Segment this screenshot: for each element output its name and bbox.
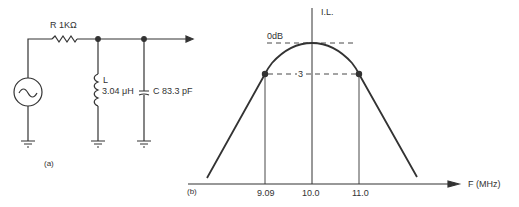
resistor-icon <box>52 36 77 42</box>
capacitor-label: C 83.3 pF <box>153 87 193 96</box>
x-axis-arrow-icon <box>448 181 459 187</box>
x-tick-9-09: 9.09 <box>257 189 275 198</box>
zero-db-label: 0dB <box>267 32 283 41</box>
circuit-caption: (a) <box>44 160 54 168</box>
resistor-label: R 1KΩ <box>50 21 77 30</box>
ground-icon <box>91 141 105 147</box>
ground-icon <box>21 141 35 147</box>
diagram-canvas <box>0 0 519 207</box>
x-tick-10-0: 10.0 <box>302 189 320 198</box>
inductor-icon <box>94 74 98 106</box>
inductor-value-label: 3.04 μH <box>102 87 134 96</box>
x-axis-label: F (MHz) <box>468 180 501 189</box>
chart-caption: (b) <box>187 188 197 196</box>
ground-icon <box>137 141 151 147</box>
capacitor-icon <box>139 91 149 95</box>
inductor-name-label: L <box>103 76 108 85</box>
y-axis-label: I.L. <box>321 8 334 17</box>
three-db-label: 3 <box>298 70 303 79</box>
x-tick-11-0: 11.0 <box>352 189 369 198</box>
insertion-loss-chart <box>188 8 459 187</box>
figure: R 1KΩ L 3.04 μH C 83.3 pF (a) I.L. 0dB 3… <box>0 0 519 207</box>
